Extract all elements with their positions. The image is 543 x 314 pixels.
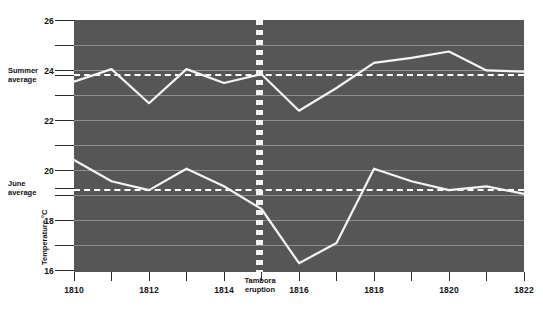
y-tick-label-22: 22 [14, 116, 54, 126]
y-tick-18 [55, 220, 74, 221]
tambora-annotation-line2: eruption [245, 285, 275, 294]
y-axis-title: Temperature °C [40, 210, 49, 265]
x-tick-1817 [336, 272, 337, 281]
june-average-leader [55, 188, 74, 189]
summer-average-label: Summer average [8, 66, 60, 85]
y-tick-16 [55, 270, 74, 271]
summer-average-leader [55, 75, 74, 76]
x-tick-label-1822: 1822 [500, 285, 543, 295]
summer-temperature-line [74, 52, 524, 111]
x-tick-1818 [374, 272, 375, 281]
x-tick-label-1810: 1810 [50, 285, 98, 295]
june-average-label: June average [8, 179, 60, 198]
x-tick-label-1818: 1818 [350, 285, 398, 295]
x-tick-1811 [111, 272, 112, 281]
tambora-eruption-annotation: Tambora eruption [229, 276, 291, 295]
x-tick-1812 [149, 272, 150, 281]
series-lines [74, 20, 524, 272]
summer-average-label-line2: average [8, 75, 36, 84]
x-tick-1816 [299, 272, 300, 281]
y-tick-label-16: 16 [14, 266, 54, 276]
tambora-annotation-line1: Tambora [244, 276, 275, 285]
summer-average-label-line1: Summer [8, 66, 38, 75]
june-temperature-line [74, 160, 524, 263]
y-tick-21 [55, 145, 74, 146]
june-average-label-line1: June [8, 179, 26, 188]
y-tick-label-26: 26 [14, 16, 54, 26]
y-tick-17 [55, 245, 74, 246]
temperature-line-chart: 26 24 22 20 18 16 Temperature °C Summer … [0, 0, 543, 314]
x-tick-1820 [449, 272, 450, 281]
y-tick-label-20: 20 [14, 166, 54, 176]
x-tick-label-1820: 1820 [425, 285, 473, 295]
y-tick-25 [55, 45, 74, 46]
x-tick-label-1812: 1812 [125, 285, 173, 295]
y-tick-20 [55, 170, 74, 171]
y-tick-22 [55, 120, 74, 121]
june-average-label-line2: average [8, 188, 36, 197]
x-tick-1822 [524, 272, 525, 281]
x-tick-1814 [224, 272, 225, 281]
x-tick-1810 [74, 272, 75, 281]
y-tick-23 [55, 95, 74, 96]
plot-area [74, 20, 524, 272]
y-tick-26 [55, 20, 74, 21]
x-tick-1819 [411, 272, 412, 281]
x-tick-1821 [486, 272, 487, 281]
x-tick-1813 [186, 272, 187, 281]
